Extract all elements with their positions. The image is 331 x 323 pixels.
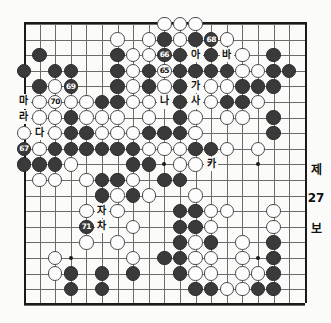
black-stone[interactable]: [142, 79, 156, 93]
black-stone[interactable]: [32, 79, 46, 93]
white-stone[interactable]: [188, 266, 202, 280]
black-stone[interactable]: [251, 282, 265, 296]
black-stone[interactable]: [220, 64, 234, 78]
black-stone[interactable]: [266, 64, 280, 78]
black-stone[interactable]: [126, 157, 140, 171]
white-stone[interactable]: [110, 110, 124, 124]
black-stone[interactable]: [266, 126, 280, 140]
white-stone[interactable]: [188, 235, 202, 249]
white-stone[interactable]: [142, 32, 156, 46]
white-stone[interactable]: [220, 204, 234, 218]
black-stone[interactable]: [251, 79, 265, 93]
black-stone[interactable]: [95, 142, 109, 156]
white-stone[interactable]: [126, 95, 140, 109]
white-stone[interactable]: [204, 95, 218, 109]
white-stone[interactable]: [173, 157, 187, 171]
white-stone[interactable]: [220, 79, 234, 93]
white-stone[interactable]: [79, 95, 93, 109]
white-stone[interactable]: [126, 220, 140, 234]
white-stone[interactable]: [142, 142, 156, 156]
white-stone[interactable]: [204, 204, 218, 218]
white-stone[interactable]: [32, 95, 46, 109]
white-stone[interactable]: [142, 110, 156, 124]
black-stone[interactable]: [173, 173, 187, 187]
white-stone[interactable]: [266, 204, 280, 218]
black-stone[interactable]: [204, 64, 218, 78]
black-stone[interactable]: [142, 157, 156, 171]
black-stone[interactable]: [17, 64, 31, 78]
white-stone[interactable]: [220, 142, 234, 156]
black-stone[interactable]: [32, 157, 46, 171]
white-stone[interactable]: [126, 48, 140, 62]
black-stone[interactable]: [173, 110, 187, 124]
white-stone[interactable]: [220, 32, 234, 46]
white-stone[interactable]: [188, 126, 202, 140]
white-stone[interactable]: [126, 64, 140, 78]
white-stone[interactable]: [64, 95, 78, 109]
white-stone[interactable]: [48, 79, 62, 93]
black-stone[interactable]: [266, 282, 280, 296]
black-stone[interactable]: [204, 48, 218, 62]
black-stone[interactable]: [157, 251, 171, 265]
white-stone[interactable]: [126, 173, 140, 187]
numbered-stone-70[interactable]: 70: [48, 95, 62, 109]
white-stone[interactable]: [188, 251, 202, 265]
black-stone[interactable]: [266, 79, 280, 93]
white-stone[interactable]: [188, 17, 202, 31]
white-stone[interactable]: [157, 142, 171, 156]
white-stone[interactable]: [220, 282, 234, 296]
black-stone[interactable]: [95, 282, 109, 296]
black-stone[interactable]: [235, 95, 249, 109]
black-stone[interactable]: [266, 48, 280, 62]
black-stone[interactable]: [173, 79, 187, 93]
black-stone[interactable]: [32, 48, 46, 62]
numbered-stone-68[interactable]: 68: [204, 32, 218, 46]
black-stone[interactable]: [157, 173, 171, 187]
white-stone[interactable]: [142, 48, 156, 62]
numbered-stone-66[interactable]: 66: [157, 48, 171, 62]
numbered-stone-69[interactable]: 69: [64, 79, 78, 93]
white-stone[interactable]: [48, 126, 62, 140]
black-stone[interactable]: [188, 142, 202, 156]
white-stone[interactable]: [110, 188, 124, 202]
black-stone[interactable]: [173, 48, 187, 62]
black-stone[interactable]: [266, 251, 280, 265]
black-stone[interactable]: [173, 126, 187, 140]
white-stone[interactable]: [17, 126, 31, 140]
white-stone[interactable]: [204, 251, 218, 265]
white-stone[interactable]: [142, 188, 156, 202]
black-stone[interactable]: [188, 282, 202, 296]
white-stone[interactable]: [95, 110, 109, 124]
black-stone[interactable]: [95, 188, 109, 202]
black-stone[interactable]: [64, 282, 78, 296]
black-stone[interactable]: [266, 266, 280, 280]
white-stone[interactable]: [157, 79, 171, 93]
black-stone[interactable]: [188, 220, 202, 234]
white-stone[interactable]: [173, 17, 187, 31]
black-stone[interactable]: [110, 79, 124, 93]
white-stone[interactable]: [235, 64, 249, 78]
white-stone[interactable]: [235, 48, 249, 62]
white-stone[interactable]: [251, 64, 265, 78]
black-stone[interactable]: [266, 110, 280, 124]
white-stone[interactable]: [79, 110, 93, 124]
black-stone[interactable]: [64, 142, 78, 156]
black-stone[interactable]: [220, 95, 234, 109]
black-stone[interactable]: [173, 235, 187, 249]
black-stone[interactable]: [188, 32, 202, 46]
white-stone[interactable]: [95, 126, 109, 140]
black-stone[interactable]: [126, 142, 140, 156]
white-stone[interactable]: [110, 235, 124, 249]
black-stone[interactable]: [173, 220, 187, 234]
black-stone[interactable]: [157, 126, 171, 140]
black-stone[interactable]: [266, 235, 280, 249]
black-stone[interactable]: [110, 64, 124, 78]
white-stone[interactable]: [32, 173, 46, 187]
white-stone[interactable]: [157, 17, 171, 31]
black-stone[interactable]: [204, 282, 218, 296]
black-stone[interactable]: [95, 173, 109, 187]
white-stone[interactable]: [48, 173, 62, 187]
black-stone[interactable]: [204, 235, 218, 249]
white-stone[interactable]: [48, 110, 62, 124]
white-stone[interactable]: [220, 110, 234, 124]
